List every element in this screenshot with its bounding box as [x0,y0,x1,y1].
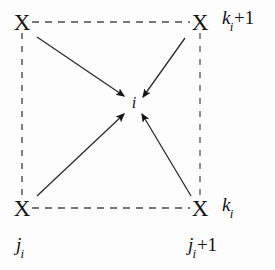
label-j-right: ji+1 [188,235,217,259]
dashed-cell-edges [22,22,200,208]
stencil-geometry [0,0,275,270]
label-k-bottom: ki [222,195,234,219]
label-k-top: ki+1 [222,8,254,32]
interpolation-stencil-figure: X X X X i ki+1 ki ji ji+1 [0,0,275,270]
arrow-from-top-right [143,38,185,97]
grid-node-top-left: X [14,11,31,34]
grid-node-top-right: X [192,11,209,34]
label-k-top-subscript: i [230,19,234,34]
label-k-top-offset: +1 [234,7,254,28]
label-j-right-offset: +1 [197,234,217,255]
grid-node-bottom-left: X [14,197,31,220]
arrow-from-top-left [37,37,124,96]
center-point-label: i [132,95,136,111]
label-j-left-subscript: i [21,246,25,261]
convergent-arrows [37,37,191,196]
arrow-from-bottom-right [142,114,191,196]
label-j-right-subscript: i [193,246,197,261]
grid-node-bottom-right: X [192,197,209,220]
label-j-left: ji [16,235,25,259]
label-k-bottom-subscript: i [230,206,234,221]
arrow-from-bottom-left [37,114,124,196]
